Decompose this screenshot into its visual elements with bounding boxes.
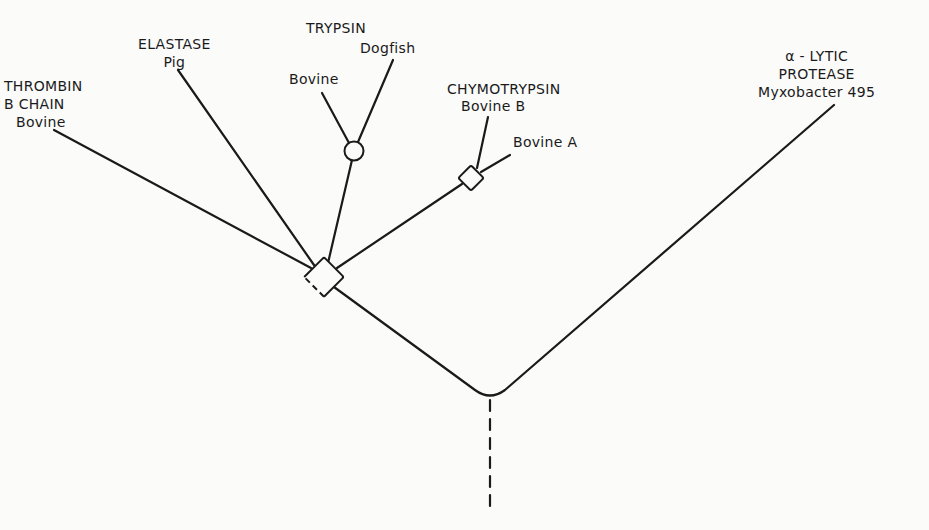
label-chymotrypsin-bovine-a-text: Bovine A	[513, 133, 577, 151]
branch-elastase	[178, 70, 314, 265]
label-chymotrypsin-group: CHYMOTRYPSIN	[447, 80, 560, 98]
label-trypsin-bovine: Bovine	[289, 70, 339, 88]
root-curve	[334, 105, 834, 396]
branch-chymotrypsin-stem	[337, 184, 462, 268]
chymotrypsin-node-diamond	[458, 165, 483, 190]
label-thrombin-line1: THROMBIN	[4, 77, 83, 95]
label-trypsin-dogfish: Dogfish	[360, 39, 415, 57]
branch-trypsin-stem	[328, 160, 352, 263]
label-trypsin-bovine-text: Bovine	[289, 70, 339, 88]
branch-thrombin	[54, 130, 311, 268]
label-chymotrypsin-bovine-a: Bovine A	[513, 133, 577, 151]
branch-chymotrypsin-bovine-a	[481, 155, 510, 172]
label-thrombin: THROMBIN B CHAIN Bovine	[4, 77, 83, 131]
label-thrombin-line2: B CHAIN	[4, 95, 83, 113]
label-elastase-line1: ELASTASE	[138, 35, 211, 53]
label-chymotrypsin-bovine-b-text: Bovine B	[461, 97, 525, 115]
label-alpha-lytic-line2: PROTEASE	[758, 65, 875, 83]
label-trypsin-text: TRYPSIN	[306, 19, 366, 37]
label-elastase-line2: Pig	[138, 53, 211, 71]
label-alpha-lytic-line1: α - LYTIC	[758, 47, 875, 65]
branch-trypsin-dogfish	[358, 60, 393, 142]
branch-chymotrypsin-bovine-b	[477, 117, 488, 168]
label-chymotrypsin-text: CHYMOTRYPSIN	[447, 80, 560, 98]
label-thrombin-line3: Bovine	[4, 113, 83, 131]
trypsin-node-circle	[345, 142, 364, 161]
branch-trypsin-bovine	[322, 93, 349, 143]
label-chymotrypsin-bovine-b: Bovine B	[461, 97, 525, 115]
label-trypsin-dogfish-text: Dogfish	[360, 39, 415, 57]
label-alpha-lytic: α - LYTIC PROTEASE Myxobacter 495	[758, 47, 875, 101]
label-trypsin-group: TRYPSIN	[306, 19, 366, 37]
label-elastase: ELASTASE Pig	[138, 35, 211, 71]
label-alpha-lytic-line3: Myxobacter 495	[758, 83, 875, 101]
